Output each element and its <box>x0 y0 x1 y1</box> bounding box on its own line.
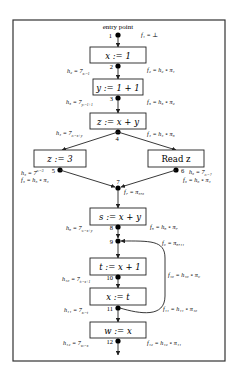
control-flow-diagram: entry point 1 f₁ = ⊥ x := 1 2 h₂ = 7x:=1… <box>0 0 236 382</box>
entry-point-label: entry point <box>103 23 134 31</box>
svg-text:5: 5 <box>52 167 55 174</box>
svg-text:2: 2 <box>110 63 113 70</box>
svg-text:4: 4 <box>115 135 119 142</box>
svg-text:6: 6 <box>181 167 185 174</box>
h8-label: h₈ = 7s:=x+y <box>66 224 93 233</box>
svg-text:s := x + y: s := x + y <box>99 212 141 222</box>
node-1-label: 1 <box>109 32 112 39</box>
f4-label: f₄ = h₄ ∘ π₃ <box>147 130 175 137</box>
h4-label: h₄ = 7z:=x+y <box>56 129 83 138</box>
f3-label: f₃ = h₃ ∘ π₂ <box>147 98 175 105</box>
node-2 <box>115 63 120 68</box>
node-8 <box>115 224 120 229</box>
h12-label: h₁₂ = 7w:=x <box>63 339 89 348</box>
node-7 <box>115 185 120 190</box>
f6-label: f₆ = h₆ ∘ π₄ <box>183 176 211 183</box>
svg-text:11: 11 <box>107 305 113 312</box>
h11-label: h₁₁ = 7x:=t <box>64 306 89 315</box>
f10-label: f₁₀ = h₁₀ ∘ π₉ <box>168 271 200 278</box>
svg-text:z := x + y: z := x + y <box>96 117 139 127</box>
svg-text:z := 3: z := 3 <box>46 154 72 164</box>
svg-text:t := x + 1: t := x + 1 <box>99 262 141 272</box>
node-9 <box>115 238 120 243</box>
svg-text:w := x: w := x <box>104 326 132 336</box>
svg-text:12: 12 <box>107 338 114 345</box>
f1-label: f₁ = ⊥ <box>141 31 158 38</box>
f5-label: f₅ = h₅ ∘ π₄ <box>21 176 49 183</box>
node-12 <box>115 338 120 343</box>
svg-text:8: 8 <box>110 224 113 231</box>
svg-text:x := t: x := t <box>106 292 130 302</box>
h2-label: h₂ = 7x:=1 <box>67 67 90 76</box>
node-3 <box>115 95 120 100</box>
h3-label: h₃ = 7y:=1+1 <box>66 98 93 107</box>
svg-text:10: 10 <box>107 274 114 281</box>
f12-label: f₁₂ = h₁₂ ∘ π₁₁ <box>147 339 181 346</box>
svg-text:7: 7 <box>116 178 120 185</box>
node-1 <box>115 32 120 37</box>
f11-label: f₁₁ = h₁₁ ∘ π₁₀ <box>163 305 197 312</box>
svg-text:y := 1 + 1: y := 1 + 1 <box>95 83 140 93</box>
f8-label: f₈ = h₈ ∘ π₇ <box>150 223 178 230</box>
svg-text:Read z: Read z <box>161 154 191 164</box>
svg-text:9: 9 <box>110 238 113 245</box>
svg-text:3: 3 <box>110 95 113 102</box>
f9-label: f₉ = π₈,₁₁ <box>162 239 184 246</box>
svg-text:x := 1: x := 1 <box>105 51 131 61</box>
h10-label: h₁₀ = 7t:=x+1 <box>62 275 90 284</box>
f7-label: f₇ = π₅,₆ <box>124 188 144 195</box>
f2-label: f₂ = h₂ ∘ π₁ <box>147 66 175 73</box>
node-11 <box>115 305 120 310</box>
h5-label: h₅ = 7z:=3 <box>21 169 44 176</box>
node-10 <box>115 274 120 279</box>
